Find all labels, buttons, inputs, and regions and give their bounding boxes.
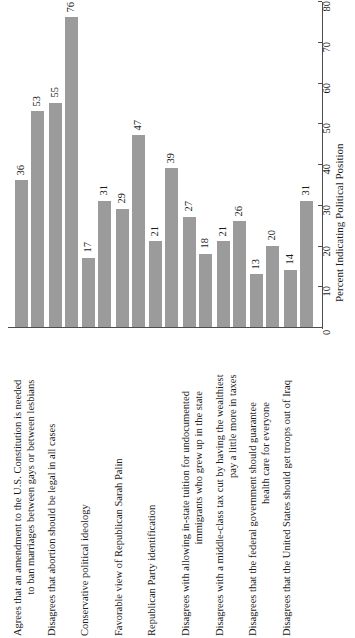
category-label: Favorable view of Republican Sarah Palin bbox=[113, 330, 143, 636]
category-label-line: Disagrees that the federal government sh… bbox=[247, 402, 260, 636]
bar-group: 1731 bbox=[82, 0, 111, 327]
category-label-line: immigrants who grew up in the state bbox=[193, 391, 206, 636]
category-label: Republican Party identification bbox=[146, 330, 176, 636]
bar bbox=[284, 270, 297, 327]
category-label: Disagrees that abortion should be legal … bbox=[46, 330, 76, 636]
category-label: Conservative political ideology bbox=[79, 330, 109, 636]
bar bbox=[116, 209, 129, 327]
bar bbox=[233, 221, 246, 327]
bar bbox=[82, 258, 95, 327]
bar-group: 2126 bbox=[217, 0, 246, 327]
category-label-line: Disagrees with allowing in-state tuition… bbox=[180, 391, 193, 636]
category-label: Disagrees with a middle-class tax cut by… bbox=[214, 330, 244, 636]
category-label-line: to ban marriages between gays or between… bbox=[25, 380, 38, 636]
category-label-line: Conservative political ideology bbox=[79, 504, 92, 636]
bar-group: 1431 bbox=[284, 0, 313, 327]
bar bbox=[217, 241, 230, 327]
category-label-line: Agrees that an amendment to the U.S. Con… bbox=[12, 380, 25, 636]
bar bbox=[98, 201, 111, 327]
axis-tick-label: 30 bbox=[322, 205, 333, 216]
category-label-line: Disagrees that the United States should … bbox=[281, 380, 294, 636]
axis-tick-label: 20 bbox=[322, 246, 333, 257]
bar-group: 3653 bbox=[15, 0, 44, 327]
bar bbox=[15, 180, 28, 327]
plot-area: 365355761731294721392718212613201431 bbox=[0, 0, 318, 328]
category-label: Disagrees with allowing in-state tuition… bbox=[180, 330, 210, 636]
bar bbox=[49, 103, 62, 327]
axis-tick-label: 60 bbox=[322, 83, 333, 94]
bar bbox=[31, 111, 44, 327]
bar-group: 5576 bbox=[49, 0, 78, 327]
category-labels: Agrees that an amendment to the U.S. Con… bbox=[0, 330, 318, 638]
bar bbox=[250, 274, 263, 327]
category-label: Disagrees that the United States should … bbox=[281, 330, 311, 636]
axis-tick-label: 70 bbox=[322, 42, 333, 53]
bar bbox=[199, 254, 212, 327]
axis-tick-label: 0 bbox=[322, 330, 333, 335]
bar-group: 2718 bbox=[183, 0, 212, 327]
category-label-line: pay a little more in taxes bbox=[226, 374, 239, 636]
bar bbox=[132, 135, 145, 327]
axis-tick-label: 50 bbox=[322, 123, 333, 134]
bar bbox=[165, 168, 178, 327]
category-label-line: health care for everyone bbox=[260, 402, 273, 636]
axis-tick bbox=[318, 327, 322, 328]
value-axis-title-text: Percent Indicating Political Position bbox=[333, 143, 345, 302]
bar bbox=[65, 17, 78, 327]
category-label-line: Republican Party identification bbox=[146, 505, 159, 636]
category-label-line: Disagrees with a middle-class tax cut by… bbox=[214, 374, 227, 636]
value-axis: 01020304050607080 bbox=[318, 0, 332, 329]
bar bbox=[266, 246, 279, 328]
category-label-line: Disagrees that abortion should be legal … bbox=[46, 424, 59, 636]
category-label: Agrees that an amendment to the U.S. Con… bbox=[12, 330, 42, 636]
category-label: Disagrees that the federal government sh… bbox=[247, 330, 277, 636]
bar-chart-figure: 365355761731294721392718212613201431 010… bbox=[0, 0, 355, 638]
bar bbox=[149, 241, 162, 327]
bar-group: 2947 bbox=[116, 0, 145, 327]
bar bbox=[300, 201, 313, 327]
value-axis-title: Percent Indicating Political Position bbox=[332, 0, 348, 330]
axis-tick-label: 40 bbox=[322, 164, 333, 175]
bar bbox=[183, 217, 196, 327]
bar-group: 1320 bbox=[250, 0, 279, 327]
bar-group: 2139 bbox=[149, 0, 178, 327]
axis-tick-label: 80 bbox=[322, 1, 333, 12]
category-label-line: Favorable view of Republican Sarah Palin bbox=[113, 458, 126, 636]
axis-tick-label: 10 bbox=[322, 286, 333, 297]
